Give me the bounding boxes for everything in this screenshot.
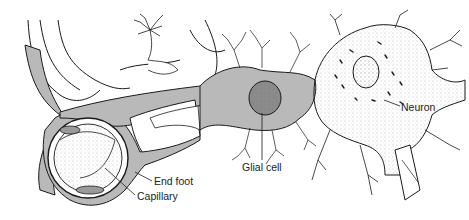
label-glial-cell: Glial cell [242, 162, 282, 173]
label-neuron: Neuron [401, 102, 435, 113]
label-capillary: Capillary [137, 191, 178, 202]
label-end-foot: End foot [154, 176, 193, 187]
glial-neuron-diagram: End foot Capillary Glial cell Neuron [0, 0, 469, 220]
glial-cell-body [200, 30, 316, 164]
neuron-body [312, 10, 465, 200]
diagram-artwork [0, 0, 469, 220]
capillary [48, 118, 128, 198]
